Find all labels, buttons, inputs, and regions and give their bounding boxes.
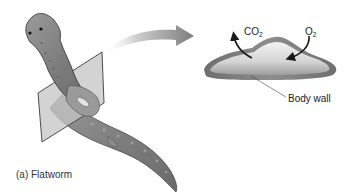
- figure-caption: (a) Flatworm: [16, 170, 72, 180]
- co2-label-sub: 2: [259, 31, 263, 38]
- body-wall-label: Body wall: [288, 94, 331, 104]
- co2-label-base: CO: [244, 26, 259, 37]
- cross-section: [204, 37, 336, 80]
- o2-label-base: O: [305, 26, 313, 37]
- o2-label-sub: 2: [313, 31, 317, 38]
- co2-label: CO2: [244, 27, 263, 39]
- o2-label: O2: [305, 27, 316, 39]
- pointer-arrow-icon: [104, 25, 194, 54]
- eyespot-right-icon: [39, 27, 42, 30]
- eyespot-left-icon: [28, 31, 31, 34]
